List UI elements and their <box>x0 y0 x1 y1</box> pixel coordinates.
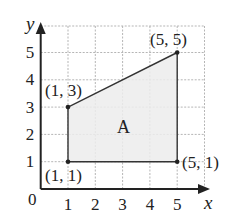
y-tick-labels: 1 2 3 4 5 <box>26 43 35 171</box>
coordinate-diagram: y x 0 1 2 3 4 5 1 2 3 4 5 (1, 1) (5, 1) … <box>0 0 234 217</box>
y-axis-arrow-icon <box>36 22 46 34</box>
svg-text:1: 1 <box>26 152 35 171</box>
svg-text:3: 3 <box>26 98 35 117</box>
svg-text:4: 4 <box>26 70 35 89</box>
origin-label: 0 <box>28 190 37 209</box>
point-label-1-1: (1, 1) <box>45 166 82 185</box>
y-axis-label: y <box>24 13 35 34</box>
point-label-5-1: (5, 1) <box>182 153 219 172</box>
region-label: A <box>117 117 130 137</box>
svg-text:2: 2 <box>91 195 100 214</box>
point-label-1-3: (1, 3) <box>45 81 82 100</box>
x-axis-label: x <box>203 192 213 213</box>
svg-text:2: 2 <box>26 125 35 144</box>
svg-text:3: 3 <box>118 195 127 214</box>
svg-text:4: 4 <box>146 195 155 214</box>
x-tick-labels: 1 2 3 4 5 <box>64 195 182 214</box>
svg-text:5: 5 <box>26 43 35 62</box>
svg-text:1: 1 <box>64 195 73 214</box>
svg-text:5: 5 <box>173 195 182 214</box>
point-label-5-5: (5, 5) <box>150 30 187 49</box>
